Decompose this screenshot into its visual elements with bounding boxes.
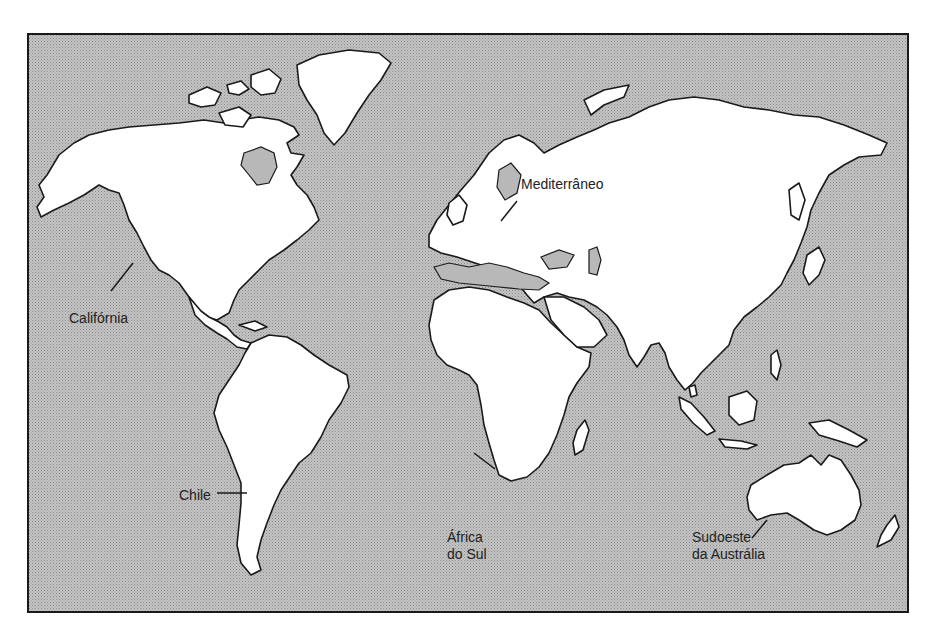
label-california: Califórnia [69,310,128,327]
label-africa-do-sul: África do Sul [447,529,487,563]
label-line: do Sul [447,546,487,563]
label-line: da Austrália [692,546,765,563]
label-chile: Chile [179,487,211,504]
landmass-borneo [729,391,757,425]
map-frame: Mediterrâneo Califórnia Chile África do … [27,33,909,613]
world-map [29,35,907,611]
label-line: África [447,529,487,546]
label-mediterraneo: Mediterrâneo [521,176,604,193]
landmass-sri-lanka [689,385,697,397]
label-line: Sudoeste [692,529,765,546]
label-sudoeste-australia: Sudoeste da Austrália [692,529,765,563]
